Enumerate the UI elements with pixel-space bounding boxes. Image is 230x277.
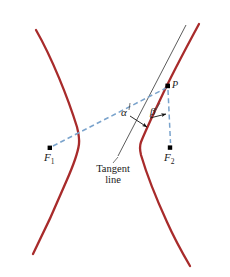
point-p-label: P [172,80,178,91]
figure-canvas [0,0,230,277]
focus-1-point [48,146,52,150]
hyperbola-reflection-figure: F1 F2 P α β Tangent line [0,0,230,277]
tangent-line-label: Tangent line [78,163,148,185]
alpha-leader [129,103,130,110]
alpha-angle-label: α [121,107,127,119]
hyperbola-left-branch [33,30,79,254]
point-p-marker [165,84,170,89]
focus-2-label: F2 [164,152,174,166]
hyperbola-right-branch [140,24,199,266]
beta-angle-label: β [150,106,155,118]
focus-2-point [168,145,172,149]
focus-1-label: F1 [44,152,54,166]
tangent-label-line2: line [78,174,148,185]
alpha-arrow [130,116,147,127]
tangent-line [118,25,186,156]
dashed-segment-p-f2 [168,90,171,143]
tangent-label-line1: Tangent [78,163,148,174]
